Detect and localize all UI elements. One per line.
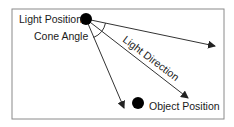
light-position-label: Light Position: [19, 13, 82, 25]
object-position-label: Object Position: [149, 100, 220, 112]
cone-angle-label: Cone Angle: [34, 30, 88, 42]
object-position-dot: [132, 97, 144, 109]
spotlight-diagram: Light Position Cone Angle Light Directio…: [0, 0, 234, 127]
